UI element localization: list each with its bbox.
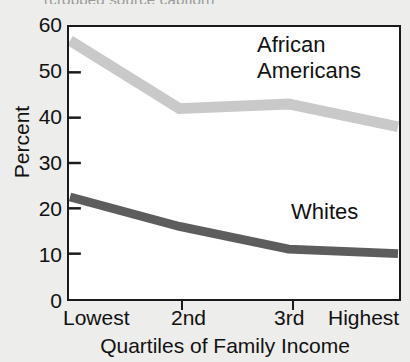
series-label-african-line1: African [257, 32, 361, 58]
series-label-african-americans: African Americans [257, 32, 361, 84]
x-tick-label-highest: Highest [328, 306, 399, 330]
y-axis-title: Percent [10, 72, 34, 212]
x-tick-label-lowest: Lowest [63, 306, 130, 330]
series-label-african-line2: Americans [257, 58, 361, 84]
y-tick-label-0: 0 [4, 290, 62, 311]
chart-figure: (cropped source caption) 60 50 40 30 20 … [0, 0, 410, 362]
x-tick-label-3rd: 3rd [274, 306, 304, 330]
y-tick-marks [69, 72, 81, 253]
y-tick-label-60: 60 [4, 14, 62, 35]
series-label-whites: Whites [291, 199, 358, 225]
x-axis-title: Quartiles of Family Income [40, 334, 410, 358]
x-tick-label-2nd: 2nd [171, 306, 206, 330]
x-axis: Lowest 2nd 3rd Highest [67, 306, 401, 332]
source-caption: (cropped source caption) [44, 0, 344, 4]
y-tick-label-10: 10 [4, 244, 62, 265]
